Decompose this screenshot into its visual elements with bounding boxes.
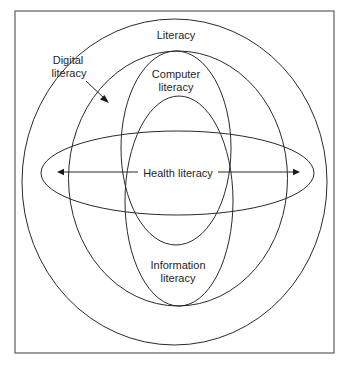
computer-literacy-label-line2: literacy	[159, 81, 194, 93]
digital-literacy-label-line1: Digital	[53, 54, 84, 66]
health-literacy-label: Health literacy	[143, 167, 213, 179]
digital-literacy-label-line2: literacy	[52, 67, 87, 79]
literacy-label: Literacy	[157, 29, 196, 41]
information-literacy-label-line2: literacy	[161, 272, 196, 284]
literacy-venn-diagram: Literacy Digital literacy Computer liter…	[0, 0, 348, 365]
information-literacy-label-line1: Information	[150, 259, 205, 271]
computer-literacy-label-line1: Computer	[152, 68, 201, 80]
